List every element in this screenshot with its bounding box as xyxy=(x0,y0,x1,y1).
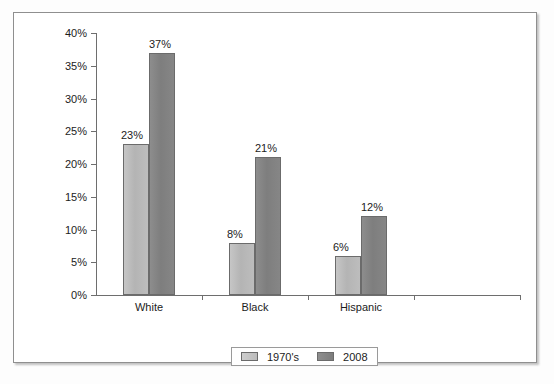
bar-value-label: 37% xyxy=(149,38,171,51)
bar-group xyxy=(441,33,493,295)
bar-hispanic-2008 xyxy=(361,216,387,295)
y-tick-label: 20% xyxy=(65,156,87,172)
bar-black-2008 xyxy=(255,157,281,295)
legend-swatch-1970s-icon xyxy=(241,352,258,361)
bar-group: 23%37% xyxy=(123,33,175,295)
bar-white-1970s xyxy=(123,144,149,295)
legend-swatch-2008-icon xyxy=(317,352,334,361)
y-tick-mark xyxy=(91,33,96,34)
y-tick-mark xyxy=(91,262,96,263)
bar-value-label: 12% xyxy=(361,201,383,214)
y-tick-label: 5% xyxy=(71,254,87,270)
y-tick-mark xyxy=(91,99,96,100)
legend-label-1970s: 1970's xyxy=(267,351,299,363)
bar-hispanic-1970s xyxy=(335,256,361,295)
chart-frame: 0%5%10%15%20%25%30%35%40% 23%37%8%21%6%1… xyxy=(13,12,537,363)
x-tick-mark xyxy=(308,295,309,300)
x-tick-mark xyxy=(520,295,521,300)
x-tick-mark xyxy=(414,295,415,300)
y-tick-label: 25% xyxy=(65,123,87,139)
plot-area: 0%5%10%15%20%25%30%35%40% 23%37%8%21%6%1… xyxy=(96,33,520,295)
bar-black-1970s xyxy=(229,243,255,295)
y-tick-mark xyxy=(91,66,96,67)
y-tick-mark xyxy=(91,230,96,231)
legend-item-series-1: 1970's xyxy=(241,351,299,363)
legend-item-series-2: 2008 xyxy=(317,351,367,363)
bar-value-label: 6% xyxy=(333,241,349,254)
bar-white-2008 xyxy=(149,53,175,295)
chart-legend: 1970's 2008 xyxy=(231,347,378,366)
y-tick-mark xyxy=(91,131,96,132)
y-tick-label: 30% xyxy=(65,91,87,107)
x-tick-mark xyxy=(202,295,203,300)
bar-group: 6%12% xyxy=(335,33,387,295)
y-tick-label: 0% xyxy=(71,287,87,303)
bar-value-label: 21% xyxy=(255,142,277,155)
y-tick-mark xyxy=(91,164,96,165)
bar-value-label: 23% xyxy=(121,129,143,142)
y-tick-label: 35% xyxy=(65,58,87,74)
legend-label-2008: 2008 xyxy=(343,351,367,363)
y-tick-mark xyxy=(91,295,96,296)
x-axis-label-hispanic: Hispanic xyxy=(316,301,406,313)
y-tick-label: 15% xyxy=(65,189,87,205)
scanned-page: 0%5%10%15%20%25%30%35%40% 23%37%8%21%6%1… xyxy=(0,0,554,384)
x-axis-label-black: Black xyxy=(210,301,300,313)
bar-value-label: 8% xyxy=(227,228,243,241)
bar-group: 8%21% xyxy=(229,33,281,295)
x-axis-label-white: White xyxy=(104,301,194,313)
y-tick-mark xyxy=(91,197,96,198)
y-tick-label: 10% xyxy=(65,222,87,238)
y-axis-line xyxy=(96,33,97,295)
y-tick-label: 40% xyxy=(65,25,87,41)
